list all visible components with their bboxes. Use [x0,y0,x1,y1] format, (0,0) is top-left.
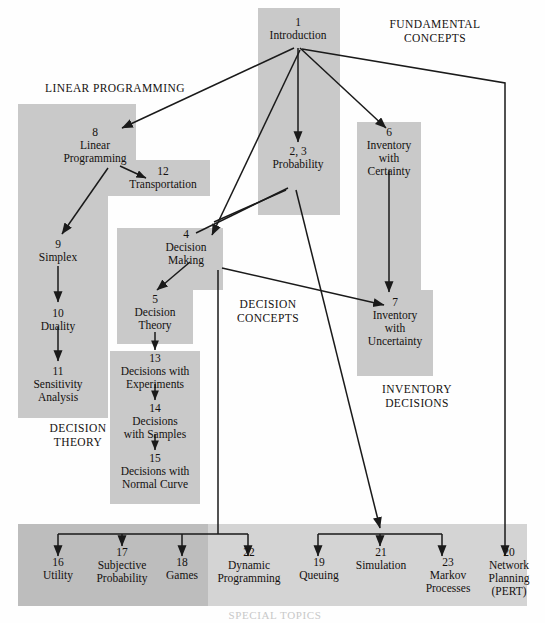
node-label-line2: Programming [40,152,150,165]
node-decision-making[interactable]: 4 Decision Making [152,228,220,267]
node-label: Introduction [252,29,344,42]
caption-line1: FUNDAMENTAL [355,18,515,32]
node-label: Duality [25,320,91,333]
node-number: 2, 3 [252,145,344,158]
node-number: 18 [153,556,211,569]
caption-line1: LINEAR PROGRAMMING [20,82,210,96]
node-number: 8 [40,126,150,139]
caption-line2: DECISIONS [352,397,482,411]
node-label-line1: Decision [152,241,220,254]
diagram-canvas: 1 Introduction 8 Linear Programming 12 T… [0,0,545,623]
node-queuing[interactable]: 19 Queuing [288,556,350,582]
node-number: 10 [25,307,91,320]
node-decisions-normal-curve[interactable]: 15 Decisions with Normal Curve [107,452,203,491]
node-label-line2: Analysis [22,391,94,404]
node-label: Transportation [108,178,218,191]
node-label-line2: Programming [205,572,293,585]
node-introduction[interactable]: 1 Introduction [252,16,344,42]
node-games[interactable]: 18 Games [153,556,211,582]
caption-fundamental-concepts: FUNDAMENTAL CONCEPTS [355,18,515,46]
caption-line1: DECISION [208,298,328,312]
node-number: 19 [288,556,350,569]
caption-line2: THEORY [28,436,128,450]
node-label-line1: Network [476,559,542,572]
caption-inventory-decisions: INVENTORY DECISIONS [352,383,482,411]
node-label-line2: Processes [412,582,484,595]
node-number: 9 [25,238,91,251]
node-label: Queuing [288,569,350,582]
caption-decision-theory: DECISION THEORY [28,422,128,450]
node-label-line1: Decision [118,306,192,319]
node-probability[interactable]: 2, 3 Probability [252,145,344,171]
node-number: 15 [107,452,203,465]
node-number: 14 [107,402,203,415]
caption-line2: CONCEPTS [355,32,515,46]
node-label-line1: Linear [40,139,150,152]
node-label-line2: with [358,322,432,335]
node-transportation[interactable]: 12 Transportation [108,165,218,191]
node-label-line2: Making [152,254,220,267]
node-label-line1: Decisions with [107,365,203,378]
node-number: 7 [358,296,432,309]
node-label-line1: Dynamic [205,559,293,572]
node-simulation[interactable]: 21 Simulation [344,546,418,572]
node-inventory-uncertainty[interactable]: 7 Inventory with Uncertainty [358,296,432,348]
node-label-line2: with [360,152,418,165]
caption-line1: DECISION [28,422,128,436]
node-label-line2: Experiments [107,378,203,391]
node-label-line1: Markov [412,569,484,582]
node-number: 4 [152,228,220,241]
node-markov-processes[interactable]: 23 Markov Processes [412,556,484,595]
node-label-line3: (PERT) [476,585,542,598]
node-decision-theory[interactable]: 5 Decision Theory [118,293,192,332]
node-label-line3: Uncertainty [358,335,432,348]
caption-decision-concepts: DECISION CONCEPTS [208,298,328,326]
node-label-line1: Inventory [358,309,432,322]
node-label: Probability [252,158,344,171]
node-inventory-certainty[interactable]: 6 Inventory with Certainty [360,126,418,178]
node-label-line3: Certainty [360,165,418,178]
node-number: 6 [360,126,418,139]
node-number: 13 [107,352,203,365]
node-number: 1 [252,16,344,29]
caption-linear-programming: LINEAR PROGRAMMING [20,82,210,96]
node-label-line2: Normal Curve [107,478,203,491]
node-number: 11 [22,365,94,378]
node-decisions-experiments[interactable]: 13 Decisions with Experiments [107,352,203,391]
node-dynamic-programming[interactable]: 22 Dynamic Programming [205,546,293,585]
node-number: 22 [205,546,293,559]
caption-line2: CONCEPTS [208,312,328,326]
node-simplex[interactable]: 9 Simplex [25,238,91,264]
caption-line1: INVENTORY [352,383,482,397]
node-linear-programming[interactable]: 8 Linear Programming [40,126,150,165]
node-number: 21 [344,546,418,559]
node-number: 23 [412,556,484,569]
node-number: 12 [108,165,218,178]
node-label-line2: Planning [476,572,542,585]
node-label: Simulation [344,559,418,572]
node-label-line1: Inventory [360,139,418,152]
node-network-planning[interactable]: 20 Network Planning (PERT) [476,546,542,598]
node-duality[interactable]: 10 Duality [25,307,91,333]
node-label: Games [153,569,211,582]
node-label: Simplex [25,251,91,264]
node-number: 20 [476,546,542,559]
node-number: 5 [118,293,192,306]
node-label-line1: Decisions with [107,465,203,478]
node-label-line2: Theory [118,319,192,332]
node-label-line1: Sensitivity [22,378,94,391]
node-sensitivity-analysis[interactable]: 11 Sensitivity Analysis [22,365,94,404]
caption-special-topics: SPECIAL TOPICS [200,609,350,621]
